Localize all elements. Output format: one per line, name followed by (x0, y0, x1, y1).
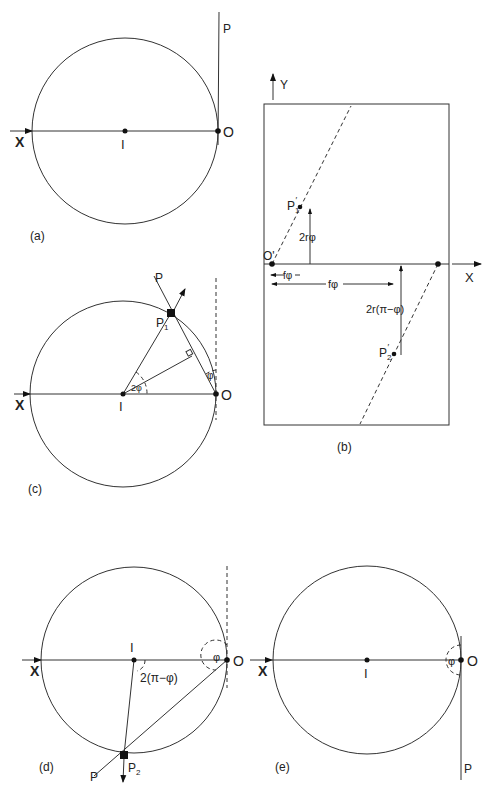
panel-d: X I O 2(π−φ) φ P P2 (d) (22, 566, 244, 784)
origin-label: O (233, 653, 244, 669)
panel-caption: (c) (28, 482, 42, 496)
ray-label: P (464, 762, 472, 776)
right-angle-mark (186, 349, 193, 356)
angle-origin-label: φ (207, 370, 214, 381)
origin-label: O (467, 653, 478, 669)
panel-caption: (a) (30, 229, 45, 243)
velocity-arrow-icon (123, 758, 124, 782)
x-axis-label: X (30, 663, 40, 679)
origin-point (224, 657, 230, 663)
origin-label: O (223, 124, 234, 140)
ray-p (218, 12, 219, 145)
panel-b: Y X O' P1′ 2rφ fφ fφ 2r(π−φ) P2′ (b) (263, 74, 481, 454)
angle-origin-label: φ (213, 651, 220, 663)
angle-center-label: 2(π−φ) (140, 671, 178, 685)
ray-label: P (223, 22, 231, 36)
ray-label: P (90, 770, 98, 784)
center-label: I (121, 137, 125, 152)
p2-prime-point (392, 352, 397, 357)
x-axis-label: X (15, 134, 25, 150)
trajectory-2 (360, 264, 438, 424)
x-axis-label: X (258, 663, 268, 679)
center-point (132, 658, 137, 663)
ray-label: P (155, 271, 163, 285)
origin-prime-label: O' (263, 249, 275, 263)
panel-caption: (b) (337, 440, 352, 454)
x-axis-label: X (465, 270, 474, 285)
center-point (123, 129, 128, 134)
center-label: I (130, 640, 134, 655)
center-point (121, 392, 126, 397)
dim-fphi-long-label: fφ (328, 278, 338, 290)
p2-label: P2 (128, 761, 141, 777)
origin-point (213, 391, 219, 397)
center-label: I (119, 399, 123, 414)
angle-center-label: 2φ (131, 383, 142, 393)
panel-caption: (d) (39, 760, 54, 774)
velocity-arrow-icon (174, 289, 185, 310)
x-axis-label: X (15, 397, 25, 413)
center-point (365, 658, 370, 663)
angle-arc-center (137, 660, 145, 671)
center-label: I (364, 666, 368, 681)
angle-origin-label: φ (448, 655, 455, 667)
origin-label: O (221, 387, 232, 403)
y-axis-label: Y (280, 78, 288, 92)
dim-2r-pi-minus-phi-label: 2r(π−φ) (366, 303, 404, 315)
p2-square (120, 751, 128, 759)
origin-point (215, 128, 221, 134)
dim-fphi-short-label: fφ (283, 270, 293, 281)
endpoint (435, 261, 441, 267)
dim-2rphi-label: 2rφ (299, 231, 316, 243)
diagram-canvas: X I O P (a) Y X O' P1′ 2rφ fφ fφ 2r(π−φ)… (0, 0, 489, 785)
panel-c: X I O P P1 2φ φ (c) (14, 271, 232, 496)
panel-e: X I O φ P (e) (250, 566, 478, 780)
panel-a: X I O P (a) (10, 12, 234, 243)
panel-caption: (e) (275, 760, 290, 774)
origin-point (458, 657, 464, 663)
radius-to-p2 (124, 660, 134, 755)
p1-prime-label: P1′ (287, 195, 300, 215)
p1-label: P1 (156, 316, 169, 332)
p1-square (167, 309, 175, 317)
p2-prime-label: P2′ (379, 342, 392, 362)
